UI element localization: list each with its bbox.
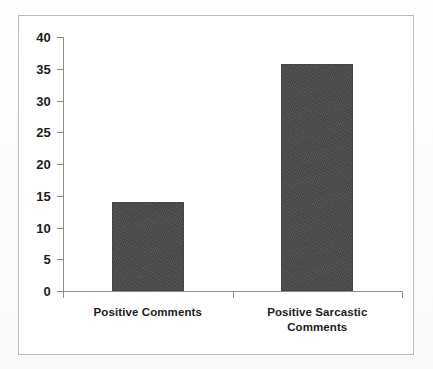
- y-axis-tick-label: 40: [23, 30, 51, 45]
- bar: [281, 64, 353, 291]
- y-axis-tick-label: 25: [23, 125, 51, 140]
- y-axis-tick-label: 30: [23, 93, 51, 108]
- y-axis-tick-mark: [57, 228, 63, 229]
- y-axis-tick-label: 10: [23, 220, 51, 235]
- y-axis-tick-mark: [57, 196, 63, 197]
- chart-frame: 0510152025303540 Positive CommentsPositi…: [18, 15, 414, 355]
- x-axis-category-label-line: Positive Comments: [63, 305, 233, 320]
- y-axis-tick-label: 5: [23, 252, 51, 267]
- y-axis-tick-mark: [57, 164, 63, 165]
- x-axis-category-label-line: Comments: [233, 320, 403, 335]
- y-axis-tick-label: 15: [23, 188, 51, 203]
- y-axis-tick-mark: [57, 259, 63, 260]
- y-axis-tick-mark: [57, 69, 63, 70]
- y-axis-tick-label: 0: [23, 284, 51, 299]
- x-axis-category-label: Positive SarcasticComments: [233, 305, 403, 335]
- x-axis-category-label: Positive Comments: [63, 305, 233, 320]
- y-axis-line: [63, 37, 64, 291]
- y-axis-tick-mark: [57, 101, 63, 102]
- x-axis-category-divider-tick: [233, 291, 234, 298]
- x-axis-category-divider-tick: [402, 291, 403, 298]
- bar-chart-plot-area: 0510152025303540 Positive CommentsPositi…: [19, 16, 413, 354]
- x-axis-category-label-line: Positive Sarcastic: [233, 305, 403, 320]
- y-axis-tick-mark: [57, 132, 63, 133]
- bar: [112, 202, 184, 291]
- y-axis-tick-label: 35: [23, 61, 51, 76]
- y-axis-tick-label: 20: [23, 157, 51, 172]
- x-axis-category-divider-tick: [63, 291, 64, 298]
- y-axis-tick-mark: [57, 37, 63, 38]
